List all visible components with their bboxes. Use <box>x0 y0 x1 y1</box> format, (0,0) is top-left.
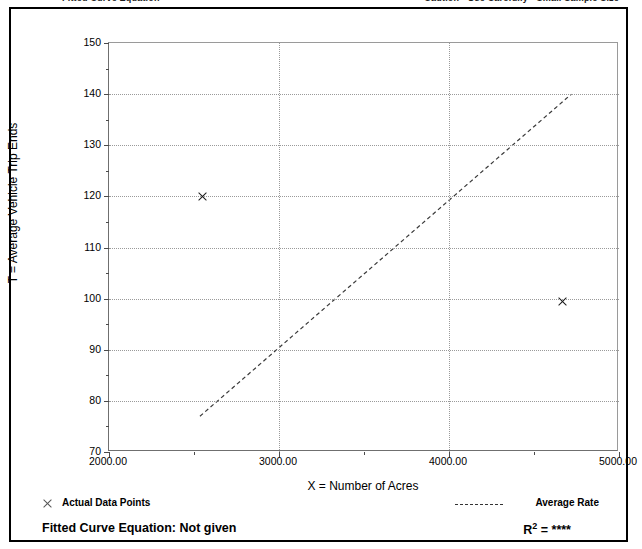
x-tick-minor <box>194 452 195 455</box>
y-gridline <box>109 401 619 402</box>
y-tick <box>104 350 109 351</box>
y-tick-label: 110 <box>59 241 101 253</box>
y-axis-title: T = Average Vehicle Trip Ends <box>6 0 20 463</box>
plot-area: 708090100110120130140150 <box>108 42 618 451</box>
page-header-band: Fitted Curve Equation Caution - Use Care… <box>0 0 637 7</box>
x-gridline <box>449 43 450 452</box>
x-tick-minor <box>534 452 535 455</box>
y-gridline <box>109 145 619 146</box>
y-tick-label: 130 <box>59 138 101 150</box>
y-tick <box>104 401 109 402</box>
header-left-text: Fitted Curve Equation <box>62 0 160 3</box>
y-tick <box>104 43 109 44</box>
y-tick <box>104 196 109 197</box>
legend-actual-data-points-label: Actual Data Points <box>62 497 150 508</box>
y-tick-label: 150 <box>59 36 101 48</box>
y-gridline <box>109 299 619 300</box>
y-tick <box>104 299 109 300</box>
x-tick-label: 3000.00 <box>243 455 313 467</box>
y-tick-label: 140 <box>59 87 101 99</box>
chart-frame: T = Average Vehicle Trip Ends X = Number… <box>9 7 628 542</box>
x-marker-icon <box>42 498 53 509</box>
y-tick-minor <box>106 324 109 325</box>
y-gridline <box>109 248 619 249</box>
y-tick <box>104 145 109 146</box>
y-tick-minor <box>106 426 109 427</box>
x-tick-label: 2000.00 <box>73 455 143 467</box>
header-right-text: Caution - Use Carefully - Small Sample S… <box>424 0 619 3</box>
x-tick-label: 5000.00 <box>583 455 642 467</box>
x-tick-minor <box>364 452 365 455</box>
y-tick-minor <box>106 120 109 121</box>
y-tick <box>104 94 109 95</box>
footer-row: Fitted Curve Equation: Not given R2 = **… <box>0 521 619 541</box>
y-tick-minor <box>106 273 109 274</box>
dashed-line-icon <box>455 504 503 505</box>
r-squared-value: R2 = **** <box>523 521 571 537</box>
chart-legend: Actual Data Points Average Rate <box>0 497 619 517</box>
fitted-curve-equation: Fitted Curve Equation: Not given <box>42 521 236 535</box>
y-tick-minor <box>106 375 109 376</box>
y-tick-label: 120 <box>59 189 101 201</box>
y-gridline <box>109 94 619 95</box>
y-tick <box>104 248 109 249</box>
y-tick-minor <box>106 222 109 223</box>
x-tick-label: 4000.00 <box>413 455 483 467</box>
data-point-marker <box>197 191 208 202</box>
y-gridline <box>109 196 619 197</box>
data-point-marker <box>557 296 568 307</box>
y-tick-minor <box>106 171 109 172</box>
y-tick-label: 80 <box>59 394 101 406</box>
x-gridline <box>279 43 280 452</box>
x-axis-title: X = Number of Acres <box>108 479 618 493</box>
y-tick-label: 100 <box>59 292 101 304</box>
y-gridline <box>109 350 619 351</box>
y-tick-minor <box>106 69 109 70</box>
y-tick-label: 90 <box>59 343 101 355</box>
legend-average-rate-label: Average Rate <box>535 497 599 508</box>
